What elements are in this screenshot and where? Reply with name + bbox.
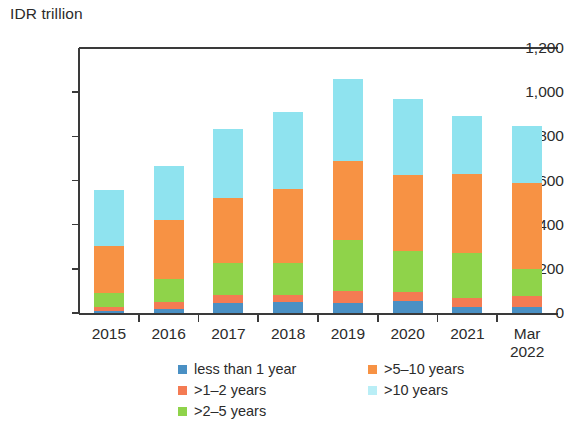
- bar-segment: [452, 116, 482, 173]
- x-axis-tick-label: 2019: [331, 325, 365, 343]
- bar-segment: [94, 246, 124, 293]
- bar-segment: [94, 190, 124, 245]
- bar-segment: [94, 311, 124, 313]
- bar-segment: [512, 296, 542, 307]
- bar-segment: [213, 295, 243, 303]
- bar-segment: [213, 263, 243, 295]
- bar-2016: [154, 166, 184, 313]
- bar-segment: [393, 175, 423, 251]
- x-axis-tick: [317, 315, 319, 322]
- x-axis-tick-label: Mar 2022: [510, 325, 544, 361]
- bar-segment: [333, 161, 363, 241]
- y-axis-tick: [72, 91, 79, 93]
- y-axis-tick: [72, 268, 79, 270]
- bar-segment: [512, 269, 542, 297]
- legend-item: >1–2 years: [178, 380, 296, 400]
- y-axis-tick: [72, 180, 79, 182]
- legend-item: >5–10 years: [368, 359, 464, 379]
- bar-segment: [213, 198, 243, 263]
- bar-segment: [154, 302, 184, 309]
- bar-segment: [154, 279, 184, 302]
- bar-segment: [333, 291, 363, 303]
- legend-label: >2–5 years: [194, 403, 266, 420]
- y-axis-tick: [72, 312, 79, 314]
- x-axis-tick: [496, 315, 498, 322]
- legend-item: less than 1 year: [178, 359, 296, 379]
- legend-item: >10 years: [368, 380, 464, 400]
- bar-segment: [154, 309, 184, 313]
- legend-swatch-icon: [178, 407, 187, 416]
- bar-segment: [273, 263, 303, 295]
- bar-segment: [512, 307, 542, 313]
- bar-segment: [273, 302, 303, 313]
- bar-2019: [333, 79, 363, 313]
- bar-segment: [213, 303, 243, 313]
- bar-segment: [393, 99, 423, 175]
- bar-segment: [154, 166, 184, 220]
- bar-segment: [154, 220, 184, 279]
- legend-swatch-icon: [178, 386, 187, 395]
- legend-swatch-icon: [368, 386, 377, 395]
- bar-segment: [213, 129, 243, 199]
- legend-label: >1–2 years: [194, 382, 266, 399]
- plot-area: [79, 48, 557, 313]
- bar-segment: [333, 240, 363, 291]
- bar-2015: [94, 190, 124, 313]
- bar-segment: [393, 251, 423, 292]
- x-axis-tick-label: 2021: [450, 325, 484, 343]
- stacked-bar-chart: IDR trillion 02004006008001,0001,200 201…: [0, 0, 564, 422]
- bar-segment: [512, 126, 542, 182]
- bar-segment: [393, 301, 423, 313]
- legend-label: >5–10 years: [384, 361, 464, 378]
- bar-2020: [393, 99, 423, 313]
- x-axis-tick: [138, 315, 140, 322]
- legend-column-right: >5–10 years>10 years: [368, 359, 464, 401]
- legend-column-left: less than 1 year>1–2 years>2–5 years: [178, 359, 296, 422]
- x-axis-tick-label: 2020: [390, 325, 424, 343]
- bar-2018: [273, 112, 303, 313]
- bar-segment: [333, 79, 363, 161]
- bar-2017: [213, 129, 243, 313]
- y-axis-title: IDR trillion: [10, 5, 83, 23]
- bar-segment: [393, 292, 423, 301]
- legend-swatch-icon: [178, 365, 187, 374]
- legend-label: >10 years: [384, 382, 448, 399]
- y-axis-tick: [72, 136, 79, 138]
- y-axis-tick: [72, 224, 79, 226]
- legend-label: less than 1 year: [194, 361, 296, 378]
- bar-segment: [333, 303, 363, 313]
- x-axis-tick: [377, 315, 379, 322]
- bar-segment: [452, 298, 482, 308]
- legend-item: >2–5 years: [178, 401, 296, 421]
- x-axis-tick-label: 2017: [211, 325, 245, 343]
- x-axis-tick-label: 2015: [92, 325, 126, 343]
- x-axis-tick: [257, 315, 259, 322]
- x-axis-tick-label: 2018: [271, 325, 305, 343]
- bar-segment: [452, 307, 482, 313]
- bar-segment: [452, 174, 482, 254]
- legend-swatch-icon: [368, 365, 377, 374]
- x-axis-tick: [198, 315, 200, 322]
- bar-2021: [452, 116, 482, 313]
- bar-segment: [273, 112, 303, 189]
- x-axis-tick-label: 2016: [151, 325, 185, 343]
- bar-segment: [512, 183, 542, 269]
- bar-segment: [452, 253, 482, 297]
- bar-segment: [94, 293, 124, 307]
- x-axis-tick: [437, 315, 439, 322]
- bar-segment: [273, 189, 303, 263]
- bar-segment: [94, 307, 124, 310]
- bar-segment: [273, 295, 303, 302]
- bar-mar-2022: [512, 126, 542, 313]
